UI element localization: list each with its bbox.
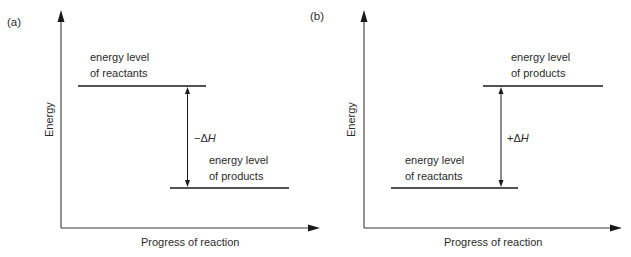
upper-level-label-line1: energy level [90,51,149,63]
panel-a-axes [58,10,321,232]
upper-level-label-line2: of reactants [90,67,148,79]
arrow-down-icon [185,180,190,187]
panel-b-axes [361,10,623,232]
y-axis-label: Energy [345,102,357,137]
x-axis-arrow-icon [610,225,622,232]
arrow-up-icon [499,87,504,94]
arrow-down-icon [499,180,504,187]
panel-b-label: (b) [310,10,324,22]
arrow-up-icon [185,87,190,94]
y-axis-arrow-icon [361,10,368,22]
upper-level-label-line2: of products [511,67,566,79]
x-axis-arrow-icon [308,225,320,232]
x-axis-label: Progress of reaction [444,236,542,248]
lower-level-label-line2: of products [209,170,264,182]
y-axis-label: Energy [43,102,55,137]
lower-level-label-line1: energy level [209,154,268,166]
panel-b: (b) Energy Progress of reaction energy l… [310,10,622,248]
lower-level-label-line1: energy level [405,154,464,166]
x-axis-label: Progress of reaction [141,236,239,248]
upper-level-label-line1: energy level [511,51,570,63]
delta-h-arrow [185,87,190,187]
y-axis-arrow-icon [58,10,65,22]
energy-level-diagrams: (a) Energy Progress of reaction energy l… [0,0,631,257]
lower-level-label-line2: of reactants [405,170,463,182]
delta-h-label: +ΔH [507,132,529,144]
delta-h-arrow [499,87,504,187]
delta-h-label: −ΔH [194,132,216,144]
panel-a: (a) Energy Progress of reaction energy l… [7,10,320,248]
panel-a-label: (a) [7,16,21,28]
